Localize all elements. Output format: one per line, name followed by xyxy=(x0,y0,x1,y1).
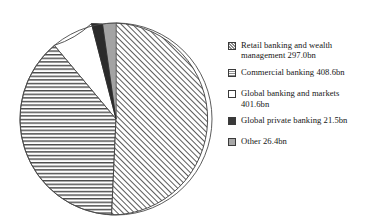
diagonal-hatch-swatch-icon xyxy=(228,42,236,50)
legend-label-global-private-banking: Global private banking 21.5bn xyxy=(241,115,347,125)
pie-chart-plot-area xyxy=(0,0,230,224)
pie-chart-svg xyxy=(0,0,230,224)
legend-item-other[interactable]: Other 26.4bn xyxy=(228,136,391,146)
legend-label-retail-banking: Retail banking and wealthmanagement 297.… xyxy=(241,40,332,61)
legend-item-global-private-banking[interactable]: Global private banking 21.5bn xyxy=(228,115,391,125)
legend-item-global-banking-and-markets[interactable]: Global banking and markets401.6bn xyxy=(228,88,391,109)
black-swatch-icon xyxy=(228,117,236,125)
pie-slice-retail-banking-and-wealth-management xyxy=(112,23,208,215)
chart-legend: Retail banking and wealthmanagement 297.… xyxy=(228,0,391,224)
legend-label-global-banking-and-markets: Global banking and markets401.6bn xyxy=(241,88,339,109)
horizontal-stripe-swatch-icon xyxy=(228,69,236,77)
legend-item-commercial-banking[interactable]: Commercial banking 408.6bn xyxy=(228,67,391,77)
pie-chart-figure: Retail banking and wealthmanagement 297.… xyxy=(0,0,391,224)
legend-item-retail-banking[interactable]: Retail banking and wealthmanagement 297.… xyxy=(228,40,391,61)
legend-label-other: Other 26.4bn xyxy=(241,136,287,146)
legend-label-commercial-banking: Commercial banking 408.6bn xyxy=(241,67,345,77)
gray-swatch-icon xyxy=(228,138,236,146)
white-swatch-icon xyxy=(228,90,236,98)
